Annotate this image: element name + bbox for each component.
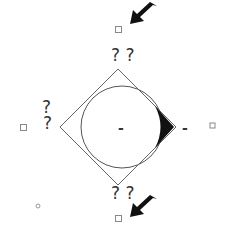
arrow-top-icon (130, 2, 157, 24)
checkbox-icon[interactable] (210, 123, 215, 128)
handle-left[interactable] (20, 124, 27, 131)
label-right: - (182, 121, 188, 135)
label-top: ? ? (111, 47, 134, 64)
dark-wedge (155, 106, 174, 148)
handle-bottom[interactable] (115, 215, 122, 222)
label-center: - (118, 121, 124, 135)
label-left: ? (43, 115, 52, 132)
label-bottom: ? ? (111, 185, 134, 202)
handle-top[interactable] (115, 26, 122, 33)
rotate-handle-icon[interactable] (36, 204, 40, 208)
